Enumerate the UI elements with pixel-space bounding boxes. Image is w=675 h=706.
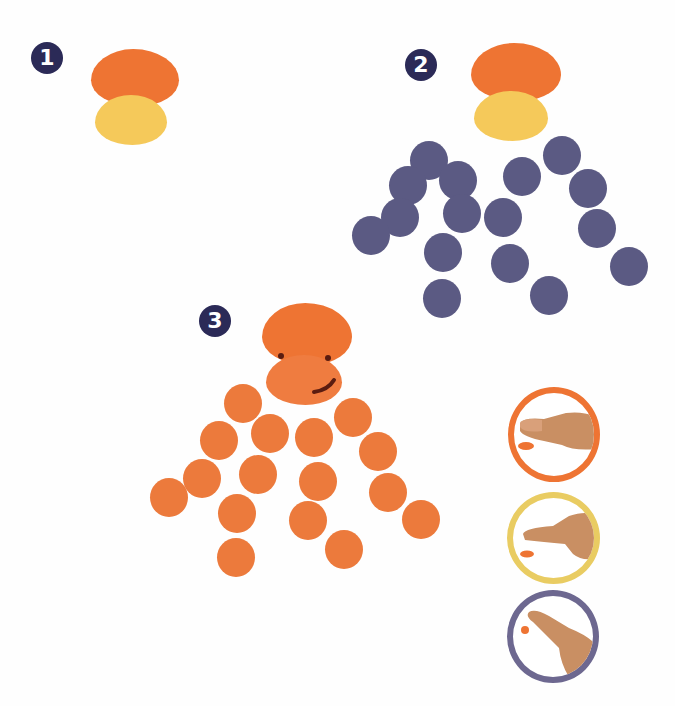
- tentacle-dot: [218, 494, 256, 533]
- tentacle-dot: [443, 194, 481, 233]
- tentacle-dot: [569, 169, 607, 208]
- tentacle-dot: [578, 209, 616, 248]
- step-1-number: 1: [39, 47, 54, 69]
- tentacle-dot: [299, 462, 337, 501]
- tentacle-dot: [334, 398, 372, 437]
- thumb-print-technique: [508, 387, 600, 482]
- tentacle-dot: [543, 136, 581, 175]
- smile-mouth: [310, 376, 340, 396]
- step-1-face-print: [95, 95, 167, 145]
- tentacle-dot: [359, 432, 397, 471]
- fingertip-hand-icon: [513, 596, 593, 677]
- tentacle-dot: [369, 473, 407, 512]
- thumb-hand-icon: [514, 393, 594, 476]
- tentacle-dot: [423, 279, 461, 318]
- tentacle-dot: [503, 157, 541, 196]
- tentacle-dot: [217, 538, 255, 577]
- tentacle-dot: [424, 233, 462, 272]
- tentacle-dot: [491, 244, 529, 283]
- tentacle-dot: [325, 530, 363, 569]
- step-2-badge: 2: [405, 49, 437, 81]
- left-eye: [278, 353, 284, 359]
- tentacle-dot: [295, 418, 333, 457]
- step-2-face-print: [474, 91, 548, 141]
- tentacle-dot: [484, 198, 522, 237]
- tentacle-dot: [150, 478, 188, 517]
- step-3-number: 3: [207, 310, 222, 332]
- fingertip-print-technique: [507, 590, 599, 683]
- tentacle-dot: [251, 414, 289, 453]
- octopus-instructions: 1 2 3: [0, 0, 675, 706]
- step-3-badge: 3: [199, 305, 231, 337]
- step-2-number: 2: [413, 54, 428, 76]
- tentacle-dot: [402, 500, 440, 539]
- finger-side-print-technique: [507, 492, 600, 584]
- step-1-badge: 1: [31, 42, 63, 74]
- tentacle-dot: [239, 455, 277, 494]
- right-eye: [325, 355, 331, 361]
- tentacle-dot: [183, 459, 221, 498]
- tentacle-dot: [610, 247, 648, 286]
- index-finger-hand-icon: [513, 498, 594, 578]
- tentacle-dot: [200, 421, 238, 460]
- tentacle-dot: [352, 216, 390, 255]
- tentacle-dot: [224, 384, 262, 423]
- tentacle-dot: [289, 501, 327, 540]
- tentacle-dot: [530, 276, 568, 315]
